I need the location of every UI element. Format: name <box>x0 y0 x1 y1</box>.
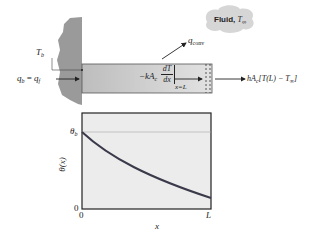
tip-conduction-eval: x=L <box>175 84 187 91</box>
y-tick-theta-b: θb <box>70 127 77 137</box>
x-axis-label: x <box>155 222 159 231</box>
tip-conduction-label: −kAc <box>139 72 157 82</box>
tip-conduction-derivative: dT dx <box>161 65 173 84</box>
y-tick-zero: 0 <box>74 204 79 213</box>
convection-heat-label: qconv <box>188 36 204 46</box>
wall-base <box>57 17 82 105</box>
x-tick-L: L <box>206 211 211 220</box>
base-temp-label: Tb <box>36 48 44 58</box>
base-heat-label: qb = qf <box>17 74 40 84</box>
tip-convection-label: hAc[T(L) − T∞] <box>247 75 297 84</box>
fin-diagram-graphics <box>0 0 314 238</box>
evaluation-bar <box>174 65 175 84</box>
convection-arrow <box>162 43 186 59</box>
fluid-label: Fluid, T∞ <box>214 15 246 25</box>
plot-area <box>82 113 211 209</box>
x-tick-zero: 0 <box>79 211 84 220</box>
y-axis-label: θ(x) <box>58 157 67 171</box>
